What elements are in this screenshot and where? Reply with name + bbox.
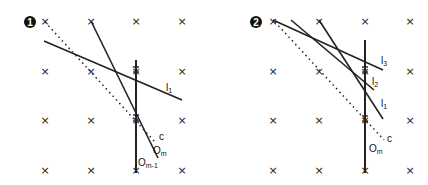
panel-1-label-om: Om bbox=[153, 145, 167, 157]
grid-marker: × bbox=[268, 164, 277, 177]
panel-1-line-l1 bbox=[44, 41, 182, 100]
grid-marker: × bbox=[177, 114, 186, 127]
grid-marker: × bbox=[314, 164, 323, 177]
grid-marker: × bbox=[131, 15, 140, 28]
panel-1-label-l1: l1 bbox=[166, 82, 172, 94]
grid-marker: × bbox=[314, 114, 323, 127]
grid-marker: × bbox=[86, 114, 95, 127]
panel-1-label-c: c bbox=[159, 131, 164, 142]
panel-2-grid-markers: ×××××××××××××××× bbox=[268, 15, 414, 177]
grid-marker: × bbox=[405, 15, 414, 28]
panel-2-label-l1: l1 bbox=[381, 98, 387, 110]
panel-2-label-om: Om bbox=[369, 143, 383, 155]
panel-2-badge-number: 2 bbox=[253, 17, 259, 28]
grid-marker: × bbox=[360, 15, 369, 28]
panel-1: 1 ×××××××××××××××× l1 c Om Om-1 bbox=[24, 15, 187, 177]
panel-2-line-l2 bbox=[291, 20, 374, 90]
grid-marker: × bbox=[86, 65, 95, 78]
grid-marker: × bbox=[405, 164, 414, 177]
grid-marker: × bbox=[40, 15, 49, 28]
grid-marker: × bbox=[177, 15, 186, 28]
diagram-canvas: 1 ×××××××××××××××× l1 c Om Om-1 2 ××××××… bbox=[0, 0, 428, 185]
grid-marker: × bbox=[40, 164, 49, 177]
grid-marker: × bbox=[405, 114, 414, 127]
panel-1-line-om bbox=[91, 21, 158, 158]
panel-2-line-l1 bbox=[319, 20, 383, 119]
panel-2-label-l3: l3 bbox=[381, 55, 387, 67]
grid-marker: × bbox=[40, 114, 49, 127]
panel-1-label-om-1: Om-1 bbox=[138, 157, 158, 169]
panel-2-line-l3 bbox=[273, 20, 383, 70]
panel-2: 2 ×××××××××××××××× l3 l2 l1 c Om bbox=[250, 15, 415, 177]
panel-1-badge-number: 1 bbox=[27, 17, 33, 28]
grid-marker: × bbox=[86, 164, 95, 177]
grid-marker: × bbox=[405, 65, 414, 78]
panel-2-label-c: c bbox=[387, 133, 392, 144]
grid-marker: × bbox=[268, 114, 277, 127]
grid-marker: × bbox=[268, 65, 277, 78]
grid-marker: × bbox=[177, 65, 186, 78]
grid-marker: × bbox=[40, 65, 49, 78]
grid-marker: × bbox=[177, 164, 186, 177]
panel-2-label-l2: l2 bbox=[372, 76, 378, 88]
